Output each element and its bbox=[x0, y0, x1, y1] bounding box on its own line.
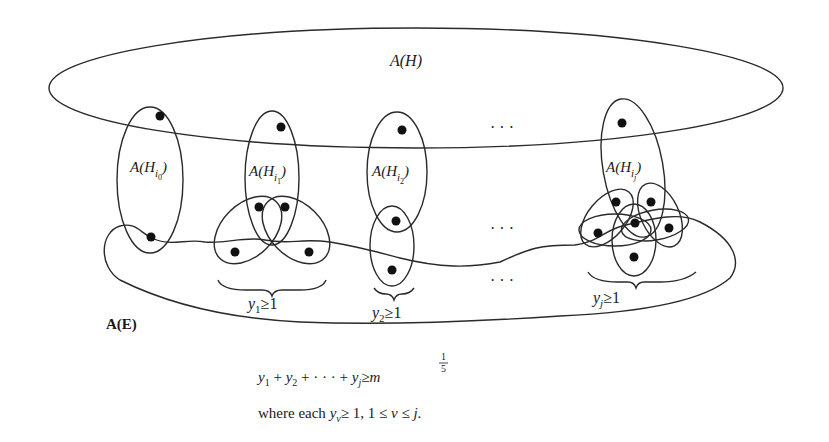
vertex bbox=[647, 198, 656, 207]
brace-label-y2: y2≥1 bbox=[370, 304, 401, 324]
vertex bbox=[147, 233, 156, 242]
vertex bbox=[630, 253, 639, 262]
brace-y1 bbox=[218, 280, 326, 296]
subset-ij-label: A(Hij) bbox=[605, 159, 641, 182]
ellipsis-top: · · · bbox=[490, 119, 514, 136]
vertex bbox=[631, 219, 640, 228]
ellipsis-middle: · · · bbox=[490, 220, 514, 237]
brace-label-y1: y1≥1 bbox=[246, 295, 277, 315]
subset-i0-label: A(Hi0) bbox=[129, 159, 167, 182]
exponent-denominator: 5 bbox=[441, 363, 446, 374]
vertex bbox=[618, 119, 627, 128]
condition-text: where each yν≥ 1, 1 ≤ ν ≤ j. bbox=[258, 405, 421, 424]
ellipsis-bottom: · · · bbox=[490, 272, 514, 289]
edge-ellipse bbox=[201, 183, 294, 276]
vertex bbox=[398, 126, 407, 135]
subset-i2-label: A(Hi2) bbox=[371, 163, 409, 186]
hypergraph-diagram: A(H) A(Hi0) A(Hi1) y1≥1 A(Hi2) y2≥1 · · … bbox=[0, 0, 829, 442]
vertex bbox=[612, 198, 621, 207]
brace-label-yj: yj≥1 bbox=[591, 289, 620, 309]
exponent-numerator: 1 bbox=[441, 351, 446, 362]
outer-set-ellipse bbox=[49, 28, 783, 148]
edge-set-boundary bbox=[104, 217, 735, 324]
edge-set-label: A(E) bbox=[106, 316, 137, 333]
vertex bbox=[594, 229, 603, 238]
vertex bbox=[665, 224, 674, 233]
vertex bbox=[231, 248, 240, 257]
edge-ellipse bbox=[249, 183, 342, 276]
brace-y2 bbox=[374, 288, 414, 300]
vertex bbox=[277, 123, 286, 132]
vertex bbox=[388, 266, 397, 275]
vertex bbox=[255, 203, 264, 212]
subset-i1-label: A(Hi1) bbox=[248, 163, 286, 186]
vertex bbox=[392, 217, 401, 226]
vertex bbox=[281, 203, 290, 212]
vertex bbox=[156, 112, 165, 121]
vertex bbox=[305, 248, 314, 257]
sum-equation: y1 + y2 + · · · + yj≥m bbox=[256, 369, 380, 388]
outer-set-label: A(H) bbox=[389, 52, 422, 70]
